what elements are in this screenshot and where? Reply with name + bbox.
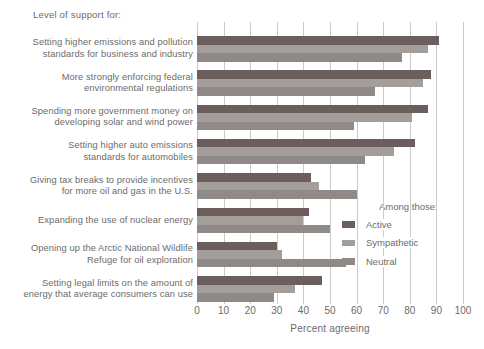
legend-label-neutral: Neutral: [364, 256, 399, 267]
category-label-line: Giving tax breaks to provide incentives: [0, 175, 193, 187]
legend-swatch-sympathetic: [342, 240, 355, 247]
chart-title: Level of support for:: [33, 9, 121, 20]
bar-sympathetic-group4: [197, 147, 394, 156]
bar-neutral-group7: [197, 259, 346, 268]
bar-neutral-group6: [197, 225, 330, 234]
bar-neutral-group1: [197, 53, 402, 62]
category-label-line: Expanding the use of nuclear energy: [0, 215, 193, 227]
bar-sympathetic-group6: [197, 216, 303, 225]
x-tick-label: 70: [378, 305, 389, 316]
bar-neutral-group2: [197, 87, 375, 96]
x-tick-label: 100: [455, 305, 472, 316]
bar-sympathetic-group8: [197, 285, 295, 294]
category-label-line: Spending more government money on: [0, 106, 193, 118]
bar-active-group1: [197, 36, 439, 45]
category-label-group1: Setting higher emissions and pollutionst…: [0, 37, 193, 60]
category-label-line: Setting legal limits on the amount of: [0, 278, 193, 290]
x-tick-label: 90: [431, 305, 442, 316]
category-label-group4: Setting higher auto emissionsstandards f…: [0, 140, 193, 163]
bar-active-group7: [197, 242, 277, 251]
category-label-group8: Setting legal limits on the amount ofene…: [0, 278, 193, 301]
gridline-80: [410, 22, 411, 304]
x-tick-label: 40: [298, 305, 309, 316]
x-tick-label: 10: [218, 305, 229, 316]
gridline-100: [463, 22, 464, 304]
x-tick-label: 30: [271, 305, 282, 316]
bar-neutral-group8: [197, 293, 274, 302]
category-label-group3: Spending more government money ondevelop…: [0, 106, 193, 129]
x-tick-label: 0: [194, 305, 200, 316]
category-label-group6: Expanding the use of nuclear energy: [0, 215, 193, 227]
category-label-line: Refuge for oil exploration: [0, 255, 193, 267]
category-label-line: environmental regulations: [0, 83, 193, 95]
bar-sympathetic-group1: [197, 45, 428, 54]
bar-active-group8: [197, 276, 322, 285]
x-tick-label: 80: [404, 305, 415, 316]
gridline-90: [436, 22, 437, 304]
category-label-line: energy that average consumers can use: [0, 289, 193, 301]
bar-neutral-group5: [197, 190, 357, 199]
x-tick-label: 50: [324, 305, 335, 316]
bar-neutral-group3: [197, 122, 354, 131]
category-label-group7: Opening up the Arctic National WildlifeR…: [0, 243, 193, 266]
category-label-line: developing solar and wind power: [0, 117, 193, 129]
x-axis-title: Percent agreeing: [197, 323, 463, 334]
bar-sympathetic-group7: [197, 250, 282, 259]
category-label-line: Setting higher emissions and pollution: [0, 37, 193, 49]
category-label-group5: Giving tax breaks to provide incentivesf…: [0, 175, 193, 198]
bar-sympathetic-group3: [197, 113, 412, 122]
bar-active-group6: [197, 208, 309, 217]
legend-swatch-neutral: [342, 258, 355, 265]
bar-sympathetic-group5: [197, 182, 319, 191]
category-label-line: standards for business and industry: [0, 49, 193, 61]
legend-title: Among those:: [377, 201, 440, 212]
bar-sympathetic-group2: [197, 79, 423, 88]
category-label-line: standards for automobiles: [0, 152, 193, 164]
category-label-line: for more oil and gas in the U.S.: [0, 186, 193, 198]
category-label-line: Opening up the Arctic National Wildlife: [0, 243, 193, 255]
bar-active-group4: [197, 139, 415, 148]
bar-active-group2: [197, 70, 431, 79]
bar-chart-figure: Level of support for: Percent agreeing A…: [0, 0, 484, 349]
bar-active-group5: [197, 173, 311, 182]
category-label-group2: More strongly enforcing federalenvironme…: [0, 72, 193, 95]
bar-active-group3: [197, 105, 428, 114]
legend-swatch-active: [342, 221, 355, 228]
legend-label-sympathetic: Sympathetic: [364, 237, 420, 248]
x-tick-label: 60: [351, 305, 362, 316]
bar-neutral-group4: [197, 156, 365, 165]
legend-label-active: Active: [364, 219, 394, 230]
category-label-line: More strongly enforcing federal: [0, 72, 193, 84]
x-tick-label: 20: [245, 305, 256, 316]
category-label-line: Setting higher auto emissions: [0, 140, 193, 152]
